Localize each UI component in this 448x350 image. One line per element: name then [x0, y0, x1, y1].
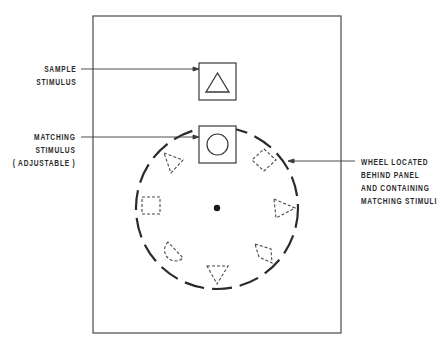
- sample-stimulus: [199, 63, 236, 100]
- arrowhead-icon-2: [193, 135, 199, 139]
- square-stimulus-icon: [142, 197, 160, 214]
- label-line: BEHIND PANEL: [361, 169, 437, 182]
- label-line: ( ADJUSTABLE ): [13, 157, 76, 170]
- arrowhead-icon-3: [288, 159, 294, 163]
- label-line: WHEEL LOCATED: [361, 156, 437, 169]
- label-line: STIMULUS: [36, 76, 76, 89]
- semicircle-stimulus-icon: [165, 242, 183, 261]
- label-line: SAMPLE: [36, 63, 76, 76]
- arrowhead-icon: [193, 67, 199, 71]
- diamond-stimulus-icon-2: [255, 244, 272, 263]
- label-line: AND CONTAINING: [361, 182, 437, 195]
- matching-stimulus: [199, 126, 236, 163]
- wheel-label: WHEEL LOCATED BEHIND PANEL AND CONTAININ…: [361, 156, 437, 208]
- label-line: MATCHING: [13, 131, 76, 144]
- diamond-stimulus-icon: [252, 149, 276, 171]
- triangle-right-stimulus-icon: [274, 199, 295, 218]
- label-line: MATCHING STIMULI: [361, 195, 437, 208]
- triangle-left-stimulus-icon: [164, 153, 183, 173]
- matching-stimulus-label: MATCHING STIMULUS ( ADJUSTABLE ): [13, 131, 76, 170]
- label-line: STIMULUS: [13, 144, 76, 157]
- sample-stimulus-label: SAMPLE STIMULUS: [36, 63, 76, 89]
- triangle-down-stimulus-icon: [207, 266, 228, 284]
- wheel-hub-dot: [214, 205, 220, 211]
